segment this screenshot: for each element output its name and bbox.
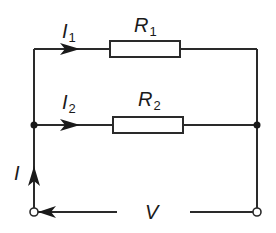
label-i: I [14,162,20,184]
label-i2: I2 [62,91,76,116]
terminal-left [30,208,38,216]
label-r2: R2 [138,88,161,113]
label-r1: R1 [134,14,157,39]
circuit-diagram: I1 R1 I2 R2 I V [0,0,276,233]
junction-right [254,122,261,129]
resistor-r1 [110,41,180,57]
terminal-right [253,208,261,216]
resistor-r2 [113,117,183,133]
label-v: V [145,201,160,223]
junction-left [31,122,38,129]
label-i1: I1 [62,20,76,45]
